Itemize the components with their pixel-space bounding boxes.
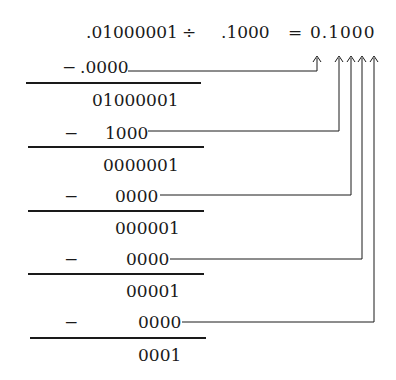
arrow-connector-3: [160, 58, 351, 195]
connector-arrows: [0, 0, 396, 380]
arrow-connector-1: [128, 58, 317, 71]
arrow-connector-5: [182, 58, 374, 322]
arrow-connector-2: [148, 58, 339, 131]
arrow-connector-4: [170, 58, 362, 259]
